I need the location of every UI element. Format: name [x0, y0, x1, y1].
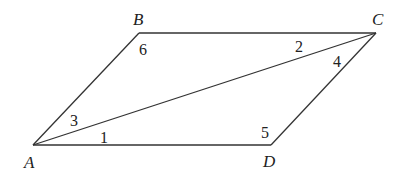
parallelogram-diagram: A B C D 1 2 3 4 5 6 [0, 0, 404, 179]
angle-label-5: 5 [261, 124, 269, 141]
angle-label-1: 1 [100, 129, 108, 146]
vertex-label-B: B [133, 10, 144, 29]
angle-label-4: 4 [333, 53, 341, 70]
angle-label-2: 2 [295, 38, 303, 55]
diagonal-AC [33, 33, 376, 145]
vertex-label-A: A [23, 153, 35, 172]
angle-label-3: 3 [70, 112, 78, 129]
vertex-label-C: C [372, 10, 384, 29]
vertex-label-D: D [262, 152, 276, 171]
angle-label-6: 6 [139, 41, 147, 58]
